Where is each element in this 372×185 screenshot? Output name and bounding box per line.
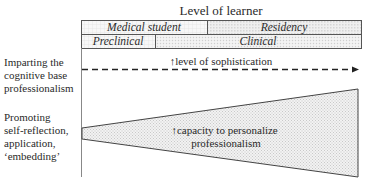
professionalism-diagram: Level of learner Medical student Residen… bbox=[0, 0, 372, 185]
header-label-clinical: Clinical bbox=[239, 35, 276, 47]
header-label-medical-student: Medical student bbox=[106, 21, 182, 33]
arrowhead-icon bbox=[352, 67, 359, 73]
header-label-residency: Residency bbox=[260, 21, 309, 34]
header-label-preclinical: Preclinical bbox=[92, 35, 144, 47]
row-label-self-reflection: Promoting self-reflection, application, … bbox=[4, 111, 71, 162]
diagram-title: Level of learner bbox=[179, 3, 263, 18]
row-label-cognitive-base: Imparting the cognitive base professiona… bbox=[4, 56, 74, 94]
annotation-level-of-sophistication: ↑level of sophistication bbox=[170, 55, 273, 67]
